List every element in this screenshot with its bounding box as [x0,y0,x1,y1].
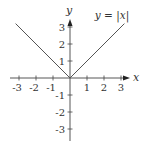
labels: -3-2-1123321-1-2-3xyy = |x| [12,4,140,135]
equation-label: y = |x| [94,9,129,23]
y-tick-label: 2 [59,39,65,50]
x-tick-label: -3 [12,82,22,93]
y-axis-arrow-icon [68,19,73,26]
y-tick-label: 1 [59,56,65,67]
axes [10,19,130,141]
y-axis-label: y [65,4,73,17]
absolute-value-graph: -3-2-1123321-1-2-3xyy = |x| [0,0,145,144]
x-tick-label: -2 [29,82,39,93]
x-tick-label: 3 [118,82,124,93]
y-tick-label: -3 [55,124,65,135]
x-tick-label: 1 [84,82,90,93]
y-tick-label: -2 [55,107,65,118]
y-tick-label: -1 [55,90,65,101]
x-axis-label: x [133,71,140,84]
x-tick-label: 2 [101,82,107,93]
x-axis-arrow-icon [123,76,130,81]
y-tick-label: 3 [59,22,65,33]
